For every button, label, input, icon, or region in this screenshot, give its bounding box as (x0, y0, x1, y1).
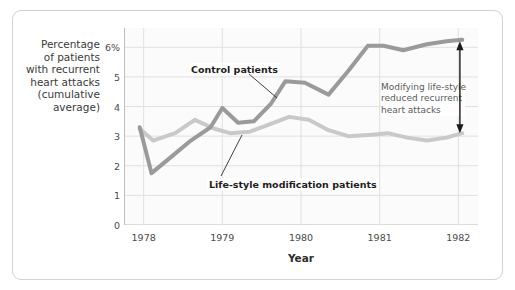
gap-callout: Modifying life-style reduced recurrent h… (381, 82, 465, 116)
y-axis-title: Percentage of patients with recurrent he… (22, 38, 100, 114)
y-axis-title-line-6: average) (22, 101, 100, 114)
lifestyle-patients-label: Life-style modification patients (207, 178, 379, 191)
x-axis-ticks: 19781979198019811982 (124, 232, 478, 248)
y-tick-label-6pct: 6% (96, 42, 120, 53)
gap-callout-line-3: heart attacks (381, 105, 465, 116)
y-tick-label-0: 0 (96, 220, 120, 231)
y-tick-label-4: 4 (96, 101, 120, 112)
plot-area (124, 28, 478, 225)
y-tick-label-3: 3 (96, 131, 120, 142)
x-tick-label-1980: 1980 (289, 232, 313, 243)
gap-callout-line-1: Modifying life-style (381, 82, 465, 93)
x-axis-title: Year (124, 252, 478, 264)
x-tick-label-1978: 1978 (132, 232, 156, 243)
y-tick-label-2: 2 (96, 160, 120, 171)
control-patients-label: Control patients (189, 63, 280, 76)
chart-figure: Percentage of patients with recurrent he… (0, 0, 515, 290)
y-axis-title-line-3: with recurrent (22, 63, 100, 76)
y-axis-ticks: 0123456% (96, 28, 120, 225)
y-tick-label-1: 1 (96, 190, 120, 201)
y-tick-label-5: 5 (96, 71, 120, 82)
y-axis-title-line-2: of patients (22, 51, 100, 64)
x-tick-label-1979: 1979 (210, 232, 234, 243)
plot-canvas (124, 28, 478, 225)
y-axis-title-line-1: Percentage (22, 38, 100, 51)
x-tick-label-1981: 1981 (368, 232, 392, 243)
x-tick-label-1982: 1982 (446, 232, 470, 243)
gap-callout-line-2: reduced recurrent (381, 93, 465, 104)
y-axis-title-line-5: (cumulative (22, 88, 100, 101)
y-axis-title-line-4: heart attacks (22, 76, 100, 89)
